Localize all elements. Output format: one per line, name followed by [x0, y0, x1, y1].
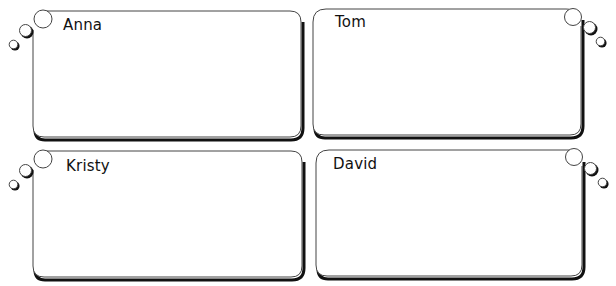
- bubble-small-icon: [9, 180, 19, 190]
- card-name: Anna: [63, 16, 102, 34]
- thought-bubble-frame: [0, 140, 310, 286]
- bubble-small-icon: [598, 178, 608, 188]
- thought-card-tom: Tom: [300, 0, 616, 145]
- thought-bubble-frame: [0, 0, 310, 145]
- bubble-large-icon: [566, 149, 583, 166]
- thought-card-david: David: [300, 140, 616, 286]
- thought-card-kristy: Kristy: [0, 140, 310, 286]
- card-name: Kristy: [66, 157, 110, 175]
- bubble-medium-icon: [20, 25, 34, 39]
- bubble-small-icon: [9, 40, 19, 50]
- bubble-medium-icon: [584, 22, 598, 36]
- bubble-large-icon: [34, 150, 52, 168]
- bubble-large-icon: [34, 10, 52, 28]
- bubble-large-icon: [565, 9, 582, 26]
- bubble-small-icon: [596, 37, 606, 47]
- card-name: David: [333, 155, 377, 173]
- card-name: Tom: [335, 13, 366, 31]
- thought-card-anna: Anna: [0, 0, 310, 145]
- bubble-medium-icon: [585, 163, 599, 177]
- bubble-medium-icon: [20, 165, 34, 179]
